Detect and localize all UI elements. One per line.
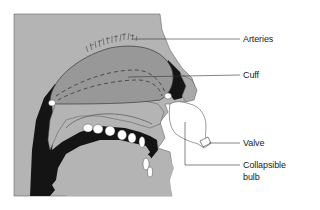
label-valve: Valve [243, 138, 264, 148]
cuff-end-anterior [165, 93, 172, 99]
label-arteries: Arteries [243, 34, 273, 44]
label-collapsible-bulb-line2: bulb [243, 172, 260, 182]
label-cuff: Cuff [243, 70, 259, 80]
cuff-end-posterior [49, 100, 56, 106]
label-collapsible-bulb-line1: Collapsible [243, 160, 286, 170]
